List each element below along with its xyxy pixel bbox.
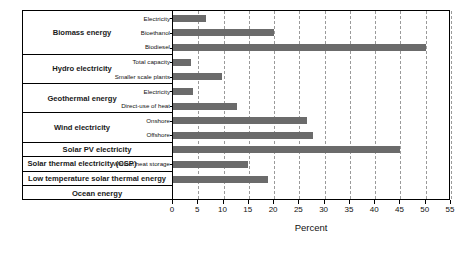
x-tick-label: 50 [414,205,436,214]
subcategory-label: Bioethanol [108,29,170,36]
category-group-row: Solar thermal electricity (CSP)Without h… [23,157,172,172]
gridline [249,11,250,199]
category-group-row: Hydro electricityTotal capacitySmaller s… [23,55,172,84]
x-tick [248,200,249,204]
x-tick [374,200,375,204]
y-tick [170,106,173,107]
subcategory-label: Biodiesel [108,43,170,50]
x-tick-label: 5 [186,205,208,214]
x-tick-label: 25 [287,205,309,214]
y-tick [170,33,173,34]
x-tick-label: 15 [237,205,259,214]
subcategory-label-list: OnshoreOffshore [108,113,170,141]
y-tick [170,48,173,49]
y-tick [170,62,173,63]
bar [173,132,313,139]
subcategory-label-list [108,186,170,201]
bar [173,59,191,66]
x-tick-label: 0 [161,205,183,214]
x-tick [298,200,299,204]
x-tick [450,200,451,204]
bar [173,73,222,80]
x-tick-label: 30 [313,205,335,214]
y-tick [170,135,173,136]
bar [173,161,248,168]
category-group-row: Ocean energy [23,186,172,201]
y-tick [170,18,173,19]
gridline [426,11,427,199]
subcategory-label-list: Without heat storage [108,157,170,171]
gridline [451,11,452,199]
bar [173,146,400,153]
subcategory-label: Electricity [108,88,170,95]
subcategory-label: Without heat storage [108,160,170,167]
y-tick [170,77,173,78]
y-tick [170,121,173,122]
x-tick [223,200,224,204]
subcategory-label-list: ElectricityBioethanolBiodiesel [108,11,170,54]
subcategory-label: Electricity [108,15,170,22]
bar [173,103,237,110]
x-tick [197,200,198,204]
x-tick-label: 35 [338,205,360,214]
bar [173,29,274,36]
x-tick [273,200,274,204]
bar [173,15,206,22]
subcategory-label-list [108,143,170,157]
x-tick-label: 45 [388,205,410,214]
x-tick-label: 10 [212,205,234,214]
subcategory-label-list [108,172,170,186]
x-axis: 0510152025303540455055 [172,200,450,201]
bar [173,117,307,124]
subcategory-label: Direct-use of heat [108,102,170,109]
category-group-row: Geothermal energyElectricityDirect-use o… [23,84,172,113]
x-tick [172,200,173,204]
category-label-table: Biomass energyElectricityBioethanolBiodi… [22,10,172,200]
x-tick [349,200,350,204]
x-tick-label: 20 [262,205,284,214]
subcategory-label: Total capacity [108,58,170,65]
subcategory-label: Offshore [108,131,170,138]
gridline [274,11,275,199]
category-group-row: Low temperature solar thermal energy [23,172,172,187]
gridline [375,11,376,199]
category-group-row: Solar PV electricity [23,143,172,158]
bar [173,44,426,51]
gridline [400,11,401,199]
x-tick-label: 40 [363,205,385,214]
plot-area [172,10,450,200]
horizontal-bar-chart: Biomass energyElectricityBioethanolBiodi… [0,0,466,255]
gridline [325,11,326,199]
bar [173,176,268,183]
x-tick [399,200,400,204]
x-tick-label: 55 [439,205,461,214]
gridline [299,11,300,199]
subcategory-label: Smaller scale plants [108,73,170,80]
y-tick [170,91,173,92]
subcategory-label-list: ElectricityDirect-use of heat [108,84,170,112]
category-group-row: Wind electricityOnshoreOffshore [23,113,172,142]
gridline [350,11,351,199]
x-axis-title: Percent [172,222,450,233]
y-tick [170,164,173,165]
x-tick [324,200,325,204]
x-tick [425,200,426,204]
subcategory-label-list: Total capacitySmaller scale plants [108,55,170,83]
category-group-row: Biomass energyElectricityBioethanolBiodi… [23,11,172,55]
subcategory-label: Onshore [108,117,170,124]
bar [173,88,193,95]
